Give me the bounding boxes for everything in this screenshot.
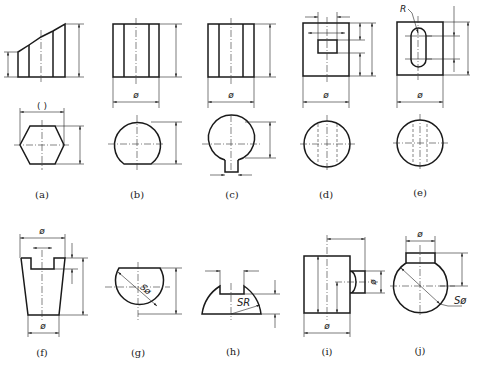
label-e: (e) bbox=[413, 187, 427, 198]
dim-h-sphere-radius: SR bbox=[237, 297, 250, 308]
dim-e-radius: R bbox=[400, 4, 406, 14]
drawing-canvas: ( ) ø ø bbox=[0, 0, 480, 378]
label-f: (f) bbox=[36, 347, 48, 358]
dim-i-side-diameter: ø bbox=[368, 279, 378, 286]
label-c: (c) bbox=[225, 189, 238, 200]
label-g: (g) bbox=[131, 347, 145, 358]
dim-b-diameter: ø bbox=[132, 90, 139, 100]
dim-d-diameter: ø bbox=[322, 90, 329, 100]
dim-g-sphere: Sø bbox=[138, 282, 153, 297]
label-d: (d) bbox=[319, 189, 333, 200]
figure-g: Sø bbox=[105, 262, 182, 320]
dim-j-top-diameter: ø bbox=[416, 229, 423, 239]
label-h: (h) bbox=[226, 346, 240, 357]
figure-f: ø ø bbox=[20, 226, 88, 337]
dim-i-diameter: ø bbox=[323, 321, 330, 331]
figure-b: ø bbox=[108, 18, 182, 172]
figure-d: ø bbox=[300, 12, 376, 172]
figure-h: SR bbox=[202, 270, 280, 328]
figure-i: ø ø bbox=[304, 235, 385, 337]
label-i: (i) bbox=[321, 346, 332, 357]
figure-j: ø Sø bbox=[390, 229, 468, 315]
dim-j-sphere: Sø bbox=[454, 295, 467, 306]
label-a: (a) bbox=[35, 189, 49, 200]
dim-f-top-diameter: ø bbox=[38, 226, 45, 236]
figure-a: ( ) bbox=[4, 24, 84, 170]
figure-c: ø bbox=[202, 18, 276, 175]
figure-e: R ø bbox=[393, 4, 470, 171]
dim-f-bottom-diameter: ø bbox=[39, 321, 46, 331]
dim-e-diameter: ø bbox=[416, 90, 423, 100]
label-j: (j) bbox=[415, 345, 426, 356]
dim-a-width: ( ) bbox=[37, 101, 47, 111]
label-b: (b) bbox=[130, 189, 144, 200]
dim-c-diameter: ø bbox=[227, 90, 234, 100]
